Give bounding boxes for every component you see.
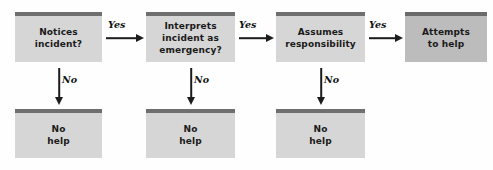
node-notices-incident: Notices incident? <box>15 12 102 62</box>
arrow-no-2-shaft <box>190 68 192 98</box>
arrow-yes-3-shaft <box>369 37 397 39</box>
arrow-no-3-shaft <box>320 68 322 98</box>
node-interprets-incident: Interprets incident as emergency? <box>146 12 235 62</box>
arrow-yes-3 <box>369 33 403 43</box>
edge-label-yes-1: Yes <box>108 19 125 30</box>
node-notices-incident-label: Notices incident? <box>31 27 86 51</box>
node-assumes-responsibility-label: Assumes responsibility <box>281 27 360 51</box>
node-no-help-1: No help <box>15 109 102 158</box>
edge-label-yes-2: Yes <box>239 19 256 30</box>
flowchart-diagram: Notices incident? Interprets incident as… <box>0 0 493 170</box>
node-attempts-to-help-label: Attempts to help <box>418 27 474 51</box>
edge-label-no-1: No <box>62 74 77 85</box>
arrow-yes-2-shaft <box>239 37 268 39</box>
arrow-yes-1 <box>106 33 144 43</box>
node-assumes-responsibility: Assumes responsibility <box>276 12 365 62</box>
edge-label-no-2: No <box>194 74 209 85</box>
node-no-help-1-label: No help <box>43 124 73 148</box>
node-no-help-3-label: No help <box>305 124 335 148</box>
arrow-no-2-head <box>187 97 195 105</box>
arrow-no-1-shaft <box>58 68 60 98</box>
arrow-no-3-head <box>317 97 325 105</box>
node-no-help-2: No help <box>146 109 235 158</box>
edge-label-yes-3: Yes <box>369 19 386 30</box>
arrow-yes-3-head <box>395 34 403 42</box>
node-no-help-2-label: No help <box>175 124 205 148</box>
arrow-yes-1-head <box>136 34 144 42</box>
node-no-help-3: No help <box>276 109 365 158</box>
arrow-yes-2 <box>239 33 274 43</box>
arrow-yes-2-head <box>266 34 274 42</box>
node-interprets-incident-label: Interprets incident as emergency? <box>155 21 225 57</box>
arrow-no-1-head <box>55 97 63 105</box>
node-attempts-to-help: Attempts to help <box>405 12 487 62</box>
edge-label-no-3: No <box>324 74 339 85</box>
arrow-yes-1-shaft <box>106 37 138 39</box>
